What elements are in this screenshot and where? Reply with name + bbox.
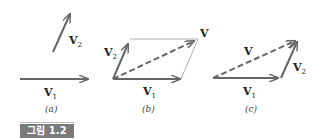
svg-text:V2: V2 [292, 61, 306, 76]
vector-v2-arrow [53, 14, 70, 52]
panel-a-label: (a) [45, 104, 58, 114]
v2-label: V2 [68, 34, 82, 49]
svg-text:V2: V2 [103, 46, 117, 61]
caption-rule [20, 122, 74, 123]
panel-a: V1 V2 (a) [20, 14, 88, 114]
v1-label: V1 [43, 86, 57, 101]
panel-c: V1 V2 V (c) [213, 41, 306, 114]
panel-c-label: (c) [245, 104, 258, 114]
panel-b-label: (b) [142, 104, 155, 114]
svg-text:V: V [199, 27, 209, 40]
svg-text:V: V [243, 45, 253, 58]
svg-text:V1: V1 [242, 85, 256, 100]
vector-v-arrow [113, 41, 194, 79]
panel-b: V1 V2 V (b) [103, 27, 209, 114]
figure-caption-badge: 그림 1.2 [20, 124, 74, 138]
vector-addition-diagram: V1 V2 (a) V1 V2 V (b) V1 V2 V (c) [0, 0, 323, 139]
svg-text:V1: V1 [142, 85, 156, 100]
